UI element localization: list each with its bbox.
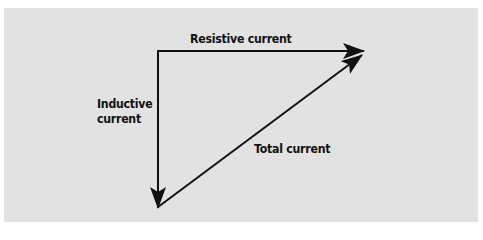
inductive-label-line2: current bbox=[97, 111, 159, 126]
inductive-current-label: Inductive current bbox=[97, 96, 159, 126]
resistive-current-label: Resistive current bbox=[190, 31, 292, 46]
total-current-label: Total current bbox=[254, 141, 330, 156]
total-current-arrow bbox=[158, 55, 362, 207]
inductive-label-line1: Inductive bbox=[97, 96, 159, 111]
